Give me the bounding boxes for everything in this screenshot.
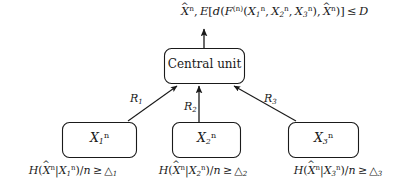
source-box-2-label: X2n (172, 132, 241, 145)
formula-arg-1: X1n (248, 4, 266, 18)
hat-accent-2: ^ (323, 1, 331, 10)
conditioning-var-1: X1n (59, 164, 76, 177)
threshold-3: △3 (369, 164, 382, 177)
entropy-symbol-3: H (294, 164, 304, 177)
relation-1: ≥ (91, 164, 105, 177)
entropy-symbol-2: H (159, 164, 169, 177)
divisor-3: n (349, 164, 356, 177)
output-symbol-hat-2: ^Xn (323, 4, 336, 18)
entropy-symbol-1: H (29, 164, 39, 177)
threshold-2: △2 (234, 164, 247, 177)
hat-x-1: ^Xn (43, 164, 55, 177)
hat-accent-c2: ^ (172, 160, 180, 169)
relation-2: ≥ (221, 164, 235, 177)
distortion-bound-symbol: D (359, 4, 368, 18)
conditioning-var-3: X3n (324, 164, 341, 177)
paren-close-c3: )/ (341, 164, 349, 177)
hat-accent: ^ (181, 1, 189, 10)
bracket-close: )] (336, 4, 345, 18)
source-box-1-label: X1n (62, 132, 137, 145)
hat-accent-c3: ^ (307, 160, 315, 169)
formula-arg-2: X2n (271, 4, 289, 18)
source-box-3-label: X3n (288, 132, 359, 145)
hat-x-2: ^Xn (173, 164, 185, 177)
formula-arg-3: X3n (295, 4, 313, 18)
central-unit-label: Central unit (164, 58, 245, 70)
output-symbol-hat: ^Xn (181, 4, 194, 18)
paren-close-c2: )/ (206, 164, 214, 177)
conditioning-var-2: X2n (189, 164, 206, 177)
relation-3: ≥ (356, 164, 370, 177)
rate-label-2: R2 (184, 101, 197, 112)
entropy-constraint-2: H(^Xn|X2n)/n ≥ △2 (140, 165, 266, 176)
threshold-1: △1 (104, 164, 117, 177)
rate-label-3: R3 (264, 93, 277, 104)
paren-close-1: ), (312, 4, 322, 18)
hat-x-3: ^Xn (308, 164, 320, 177)
relation-symbol: ≤ (345, 4, 359, 18)
encoder-function-symbol: F(n) (225, 4, 243, 18)
entropy-constraint-3: H(^Xn|X3n)/n ≥ △3 (272, 165, 404, 176)
figure-canvas: ^Xn, E[d(F(n)(X1n, X2n, X3n), ^Xn)] ≤ D … (0, 0, 414, 187)
rate-label-1: R1 (130, 93, 143, 104)
distortion-constraint-formula: ^Xn, E[d(F(n)(X1n, X2n, X3n), ^Xn)] ≤ D (181, 6, 368, 18)
paren-close-c1: )/ (76, 164, 84, 177)
divisor-1: n (84, 164, 91, 177)
hat-accent-c1: ^ (42, 160, 50, 169)
divisor-2: n (214, 164, 221, 177)
entropy-constraint-1: H(^Xn|X1n)/n ≥ △1 (8, 165, 138, 176)
diagram-svg (0, 0, 414, 187)
